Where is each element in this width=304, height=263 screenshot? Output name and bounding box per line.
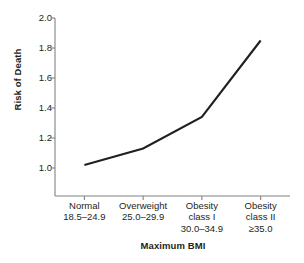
x-axis-tick-label-line: ≥35.0 [222, 223, 300, 234]
x-axis-title: Maximum BMI [55, 240, 291, 251]
x-axis-tick-label-line: Obesity [222, 200, 300, 211]
chart-figure: Risk of Death 1.01.21.41.61.82.0 Normal1… [0, 0, 304, 263]
y-axis-ticks [51, 18, 55, 168]
x-axis-tick-label: Obesityclass II≥35.0 [222, 200, 300, 234]
axis-lines [55, 18, 290, 196]
risk-of-death-line [84, 41, 260, 166]
x-axis-tick-label-line: class II [222, 211, 300, 222]
